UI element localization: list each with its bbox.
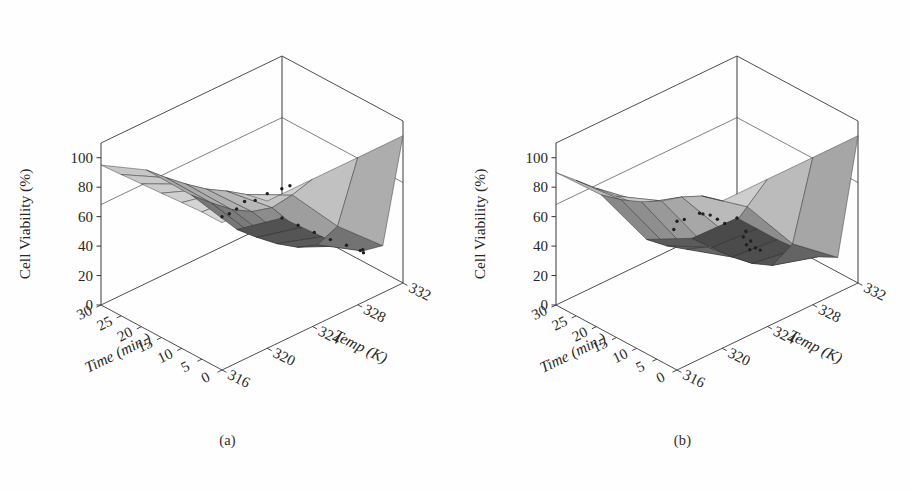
svg-text:40: 40 — [533, 238, 548, 254]
panel-caption-b: (b) — [455, 432, 910, 449]
svg-text:320: 320 — [271, 345, 298, 369]
svg-text:328: 328 — [816, 301, 843, 325]
svg-text:328: 328 — [361, 301, 388, 325]
surface-plot-a: 020406080100Cell Viability (%)3025201510… — [0, 0, 455, 440]
panel-caption-a: (a) — [0, 432, 455, 449]
svg-text:Temp (K): Temp (K) — [786, 326, 846, 367]
svg-text:332: 332 — [407, 279, 434, 303]
svg-text:Cell Viability (%): Cell Viability (%) — [16, 169, 34, 280]
svg-text:100: 100 — [526, 150, 549, 166]
svg-text:5: 5 — [633, 358, 647, 376]
svg-text:Temp (K): Temp (K) — [331, 326, 391, 367]
svg-text:316: 316 — [681, 366, 709, 390]
subplot-panel-a: 020406080100Cell Viability (%)3025201510… — [0, 0, 455, 491]
svg-text:20: 20 — [533, 268, 548, 284]
svg-text:100: 100 — [71, 150, 94, 166]
surface-plot-b: 020406080100Cell Viability (%)3025201510… — [455, 0, 910, 440]
figure-container: 020406080100Cell Viability (%)3025201510… — [0, 0, 910, 491]
svg-text:10: 10 — [155, 345, 175, 366]
svg-text:10: 10 — [610, 345, 630, 366]
svg-text:0: 0 — [199, 369, 213, 387]
svg-text:60: 60 — [78, 209, 93, 225]
svg-text:316: 316 — [226, 366, 254, 390]
svg-text:40: 40 — [78, 238, 93, 254]
subplot-panel-b: 020406080100Cell Viability (%)3025201510… — [455, 0, 910, 491]
svg-text:320: 320 — [726, 345, 753, 369]
svg-text:25: 25 — [94, 313, 114, 334]
svg-text:0: 0 — [654, 369, 668, 387]
svg-text:5: 5 — [178, 358, 192, 376]
svg-text:Cell Viability (%): Cell Viability (%) — [471, 169, 489, 280]
svg-text:80: 80 — [533, 179, 548, 195]
svg-text:25: 25 — [549, 313, 569, 334]
svg-text:20: 20 — [78, 268, 93, 284]
svg-text:332: 332 — [862, 279, 889, 303]
svg-text:60: 60 — [533, 209, 548, 225]
svg-text:80: 80 — [78, 179, 93, 195]
